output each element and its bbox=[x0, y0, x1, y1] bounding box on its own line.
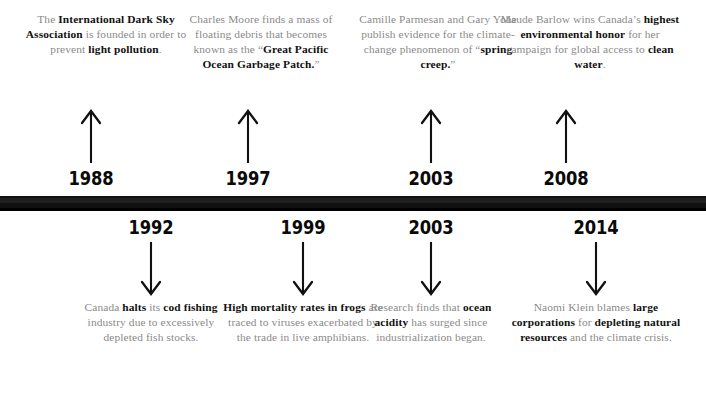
entry-blurb: Maude Barlow wins Canada’s highest envir… bbox=[500, 12, 680, 72]
entry-blurb: Naomi Klein blames large corporations fo… bbox=[511, 300, 681, 345]
down-arrow-icon-2 bbox=[418, 242, 444, 298]
year-label-below-2: 2003 bbox=[397, 216, 466, 238]
timeline-entry-above-1: Charles Moore finds a mass of floating d… bbox=[178, 12, 344, 72]
year-label-below-1: 1999 bbox=[269, 216, 338, 238]
year-label-above-0: 1988 bbox=[57, 167, 126, 189]
timeline-entry-below-0: Canada halts its cod fishing industry du… bbox=[78, 300, 224, 345]
entry-blurb: Research finds that ocean acidity has su… bbox=[363, 300, 499, 345]
year-label-above-3: 2008 bbox=[532, 167, 601, 189]
year-label-above-2: 2003 bbox=[397, 167, 466, 189]
year-label-below-3: 2014 bbox=[562, 216, 631, 238]
entry-blurb: High mortality rates in frogs are traced… bbox=[221, 300, 385, 345]
entry-blurb: Camille Parmesan and Gary Yohe publish e… bbox=[355, 12, 521, 72]
up-arrow-icon-3 bbox=[553, 107, 579, 163]
up-arrow-icon-0 bbox=[78, 107, 104, 163]
timeline-infographic: The International Dark Sky Association i… bbox=[0, 0, 706, 400]
timeline-entry-above-2: Camille Parmesan and Gary Yohe publish e… bbox=[355, 12, 521, 72]
timeline-entry-below-3: Naomi Klein blames large corporations fo… bbox=[511, 300, 681, 345]
entry-blurb: The International Dark Sky Association i… bbox=[20, 12, 192, 57]
timeline-bar bbox=[0, 196, 706, 211]
up-arrow-icon-1 bbox=[235, 107, 261, 163]
down-arrow-icon-1 bbox=[290, 242, 316, 298]
year-label-below-0: 1992 bbox=[117, 216, 186, 238]
entry-blurb: Canada halts its cod fishing industry du… bbox=[78, 300, 224, 345]
timeline-entry-above-0: The International Dark Sky Association i… bbox=[20, 12, 192, 57]
timeline-entry-below-2: Research finds that ocean acidity has su… bbox=[363, 300, 499, 345]
year-label-above-1: 1997 bbox=[214, 167, 283, 189]
up-arrow-icon-2 bbox=[418, 107, 444, 163]
down-arrow-icon-3 bbox=[583, 242, 609, 298]
timeline-entry-below-1: High mortality rates in frogs are traced… bbox=[221, 300, 385, 345]
down-arrow-icon-0 bbox=[138, 242, 164, 298]
entry-blurb: Charles Moore finds a mass of floating d… bbox=[178, 12, 344, 72]
timeline-entry-above-3: Maude Barlow wins Canada’s highest envir… bbox=[500, 12, 680, 72]
